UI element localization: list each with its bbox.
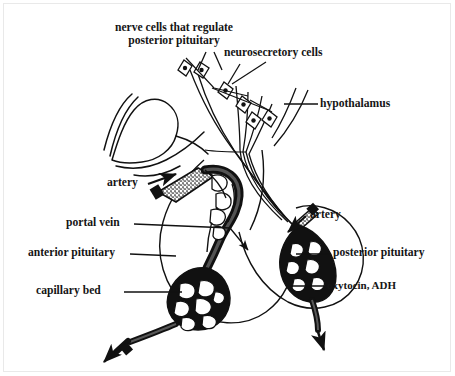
label-neurosecretory-cells: neurosecretory cells [224, 46, 322, 59]
leader-anterior-pituitary [130, 254, 176, 256]
outflow-arrow-anterior [104, 352, 114, 362]
label-portal-vein: portal vein [66, 216, 120, 229]
leader-nerve-cells-b [214, 52, 222, 70]
label-anterior-pituitary: anterior pituitary [28, 246, 115, 259]
hypothalamus-curve-a [272, 88, 296, 138]
label-artery-right: artery [310, 208, 341, 221]
label-nerve-cells-line1: nerve cells that regulate [103, 21, 245, 34]
label-capillary-bed: capillary bed [36, 284, 101, 297]
capillary-bed-anterior [104, 268, 230, 362]
optic-chiasm-shape [112, 99, 178, 163]
label-oxytocin-adh: oxytocin, ADH [327, 279, 396, 291]
label-hypothalamus: hypothalamus [320, 97, 390, 110]
label-artery-left: artery [107, 176, 138, 189]
hypothalamus-curve-b [274, 90, 308, 146]
figure-canvas: nerve cells that regulate posterior pitu… [0, 0, 455, 376]
neurosecretory-cell-bodies [178, 58, 277, 129]
leader-neurosecretory [228, 64, 240, 84]
label-nerve-cells: nerve cells that regulate posterior pitu… [103, 21, 245, 47]
brain-outline-group [104, 94, 208, 176]
artery-left-cut-end [150, 184, 165, 199]
hypothalamus-leader-group [272, 88, 318, 146]
portal-vessel-network [205, 169, 239, 268]
label-posterior-pituitary: posterior pituitary [333, 246, 425, 259]
outflow-arrow-posterior [318, 332, 324, 350]
